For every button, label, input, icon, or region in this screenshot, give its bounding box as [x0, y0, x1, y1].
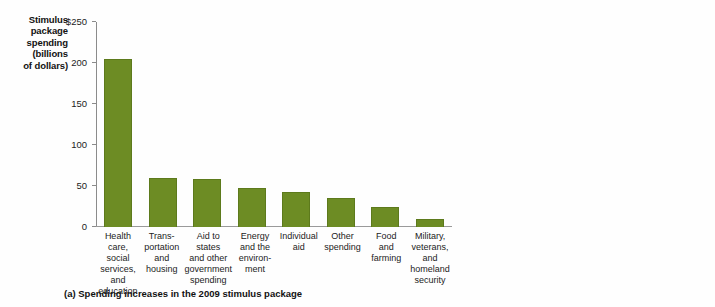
- y-axis-title-line: package: [2, 25, 68, 36]
- plot-area-a: 050100150200$250: [96, 22, 452, 227]
- bar: [327, 198, 355, 227]
- bar-slot: [230, 22, 275, 227]
- y-tick-label: 200: [71, 57, 87, 68]
- bar-slot: [185, 22, 230, 227]
- bar-slot: [363, 22, 408, 227]
- bar: [238, 188, 266, 227]
- y-axis-title-line: of dollars): [2, 60, 68, 71]
- y-tick-label: $250: [66, 16, 87, 27]
- bar: [282, 192, 310, 227]
- bar: [104, 59, 132, 227]
- bar-slot: [319, 22, 364, 227]
- y-tick-label: 100: [71, 139, 87, 150]
- bar: [149, 178, 177, 227]
- panel-caption-a: (a) Spending increases in the 2009 stimu…: [64, 288, 302, 299]
- bar-slot: [408, 22, 453, 227]
- y-axis-title-line: spending: [2, 37, 68, 48]
- bar-slot: [96, 22, 141, 227]
- bar: [416, 219, 444, 227]
- category-label: Otherspending: [321, 231, 365, 297]
- category-label: Foodandfarming: [364, 231, 408, 297]
- bar: [193, 179, 221, 227]
- bar-slot: [141, 22, 186, 227]
- y-tick-label: 150: [71, 98, 87, 109]
- bar-series-a: [96, 22, 452, 227]
- y-tick-label: 0: [82, 221, 87, 232]
- category-label: Military,veterans,andhomelandsecurity: [408, 231, 452, 297]
- y-axis-title-line: Stimulus: [2, 14, 68, 25]
- y-tick-label: 50: [76, 180, 87, 191]
- chart-panel-a: Stimuluspackagespending(billionsof dolla…: [0, 0, 462, 307]
- bar: [371, 207, 399, 227]
- y-axis-title-line: (billions: [2, 48, 68, 59]
- figure-container: Stimuluspackagespending(billionsof dolla…: [0, 0, 715, 307]
- chart-panel-b: Tax cuts(billionsof dollars) 05010015020…: [462, 0, 715, 307]
- bar-slot: [274, 22, 319, 227]
- y-axis-title-a: Stimuluspackagespending(billionsof dolla…: [2, 14, 68, 71]
